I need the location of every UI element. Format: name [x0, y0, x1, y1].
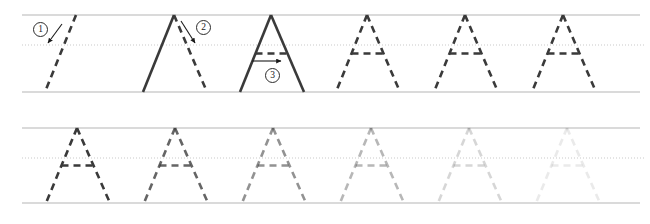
letter-a-trace-guide: [144, 128, 208, 203]
stroke-order-demo-row: 1 2 3: [0, 0, 650, 112]
stroke-direction-arrows: [0, 0, 650, 112]
letter-a-trace-guide: [438, 128, 502, 203]
stroke-direction-arrow-1: [48, 24, 62, 43]
stroke-order-marker-2: 2: [196, 20, 211, 35]
handwriting-worksheet: 1 2 3: [0, 0, 650, 224]
letters-row-2: [0, 112, 650, 224]
stroke-order-marker-1: 1: [33, 22, 48, 37]
stroke-order-marker-3: 3: [265, 68, 280, 83]
stroke-direction-arrow-2: [181, 21, 195, 43]
letter-a-trace-guide: [340, 128, 404, 203]
letter-a-trace-guide: [242, 128, 306, 203]
letter-a-trace-guide: [536, 128, 600, 203]
letter-a-trace-guide: [46, 128, 110, 203]
fading-trace-practice-row: [0, 112, 650, 224]
